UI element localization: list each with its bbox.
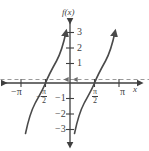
x-tick-label-pi: π [120,87,125,97]
graph-canvas [0,0,149,151]
fraction-denominator: 2 [92,97,98,105]
x-tick-label-minus-pi: −π [11,87,22,97]
y-tick-label-minus-1: −1 [55,93,66,103]
fraction-denominator: 2 [41,97,47,105]
y-tick-label-2: 2 [77,43,82,53]
math-graph-figure: f(x) x 3 2 1 −1 −2 −3 −π π − π 2 π 2 [0,0,149,151]
y-tick-label-minus-3: −3 [55,124,66,134]
x-tick-label-half-pi: π 2 [92,88,98,106]
y-axis-title: f(x) [62,8,75,17]
y-tick-label-1: 1 [77,58,82,68]
x-tick-label-minus-half-pi: − π 2 [36,88,47,106]
y-tick-label-3: 3 [77,27,82,37]
x-axis-title: x [133,85,137,94]
fraction-pi-over-2-positive: π 2 [92,88,98,106]
y-tick-label-minus-2: −2 [55,109,66,119]
fraction-pi-over-2: π 2 [41,88,47,106]
